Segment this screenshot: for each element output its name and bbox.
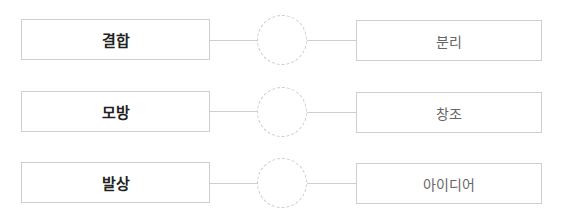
blank-circle-2 — [257, 87, 307, 137]
connector-right-3 — [307, 183, 356, 184]
left-box-3: 발상 — [21, 162, 210, 203]
left-box-2: 모방 — [21, 91, 210, 132]
connector-right-2 — [307, 112, 356, 113]
connector-left-1 — [210, 40, 258, 41]
blank-circle-3 — [257, 158, 307, 208]
connector-left-3 — [210, 183, 258, 184]
right-box-1: 분리 — [356, 20, 542, 61]
left-label-2: 모방 — [102, 101, 130, 122]
right-box-2: 창조 — [356, 92, 542, 133]
right-label-2: 창조 — [436, 103, 462, 123]
connector-right-1 — [307, 40, 356, 41]
connector-left-2 — [210, 111, 258, 112]
left-box-1: 결합 — [21, 19, 210, 60]
left-label-1: 결합 — [102, 29, 130, 50]
right-label-1: 분리 — [436, 31, 462, 51]
blank-circle-1 — [257, 15, 307, 65]
right-box-3: 아이디어 — [356, 163, 542, 204]
left-label-3: 발상 — [102, 172, 130, 193]
right-label-3: 아이디어 — [423, 174, 475, 194]
